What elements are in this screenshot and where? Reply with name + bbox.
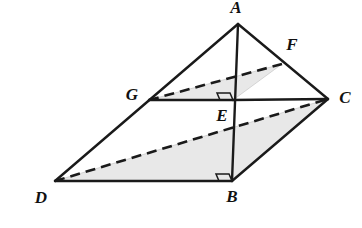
vertex-label-F: F: [285, 35, 298, 54]
vertex-label-B: B: [225, 187, 237, 206]
geometry-diagram-canvas: A B C D E F G: [0, 0, 362, 228]
vertex-label-G: G: [126, 85, 139, 104]
edge-E-C: [233, 99, 328, 100]
figure-svg: A B C D E F G: [0, 0, 362, 228]
vertex-label-E: E: [215, 106, 227, 125]
vertex-label-A: A: [229, 0, 241, 17]
vertex-label-C: C: [339, 88, 351, 107]
vertex-label-D: D: [34, 188, 47, 207]
